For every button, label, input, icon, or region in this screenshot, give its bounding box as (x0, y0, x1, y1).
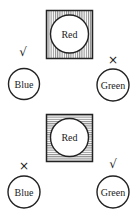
green-label: Green (101, 80, 125, 91)
cross-icon: × (19, 159, 29, 173)
blue-circle-node: Blue (8, 176, 40, 208)
green-label: Green (101, 187, 125, 198)
panel-2: Red × Blue √ Green (8, 115, 129, 209)
green-circle-node: Green (97, 176, 129, 208)
cross-icon: × (108, 53, 118, 67)
check-icon: √ (109, 157, 117, 171)
blue-circle-node: Blue (9, 69, 40, 100)
green-circle-node: Green (97, 69, 129, 101)
blue-label: Blue (15, 79, 34, 90)
check-icon: √ (19, 45, 27, 59)
panel-1: Red √ Blue × Green (9, 11, 130, 102)
red-square-vertical-hatch: Red (47, 11, 93, 59)
red-square-horizontal-hatch: Red (47, 115, 93, 162)
red-label: Red (61, 132, 77, 143)
blue-label: Blue (15, 187, 34, 198)
diagram: Red √ Blue × Green Red × Blue √ Green (0, 0, 138, 222)
red-label: Red (61, 29, 77, 40)
